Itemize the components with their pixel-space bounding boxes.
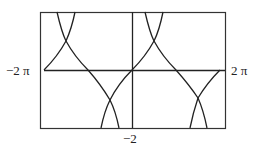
- plot-canvas: [0, 0, 256, 145]
- y-tick-label-bottom: −2: [123, 132, 137, 145]
- x-tick-label-left: −2 π: [6, 64, 30, 77]
- x-tick-label-right: 2 π: [231, 64, 247, 77]
